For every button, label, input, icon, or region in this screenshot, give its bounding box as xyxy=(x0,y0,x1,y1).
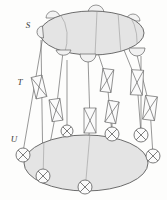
crossed-rectangle xyxy=(130,70,143,96)
crossed-circle xyxy=(36,169,50,183)
label-T: T xyxy=(17,77,23,87)
crossed-circle xyxy=(78,180,92,194)
label-S: S xyxy=(26,20,31,30)
crossed-circle xyxy=(146,149,160,163)
semicircle-node xyxy=(56,50,71,55)
crossed-circle xyxy=(134,128,148,142)
crossed-rectangle xyxy=(84,108,96,133)
crossed-rectangle xyxy=(143,95,158,120)
semicircle-node xyxy=(80,54,96,62)
top-ellipse-group xyxy=(36,5,145,62)
top-ellipse-S xyxy=(40,11,144,55)
crossed-rectangle xyxy=(100,68,114,92)
crossed-rectangle xyxy=(31,75,47,99)
crossed-circle xyxy=(61,125,73,137)
crossed-rectangle xyxy=(49,98,63,121)
crossed-circle xyxy=(16,148,30,162)
semicircle-node xyxy=(36,26,43,38)
semicircle-node xyxy=(129,48,145,56)
crossed-rectangle xyxy=(105,100,119,123)
crossed-circle xyxy=(105,127,119,141)
bundle-diagram-svg: S T U xyxy=(0,0,167,200)
figure-container: S T U xyxy=(0,0,167,200)
label-U: U xyxy=(11,134,18,144)
